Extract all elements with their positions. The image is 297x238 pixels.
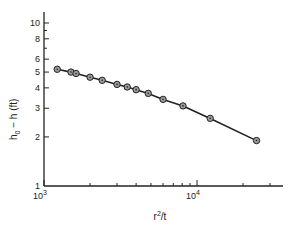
- y-tick-label: 5: [35, 67, 40, 77]
- y-tick-label: 6: [35, 54, 40, 64]
- series-line: [57, 69, 256, 140]
- y-axis-title: h0 − h (ft): [8, 99, 21, 140]
- drawdown-chart: 123456810 103104 h0 − h (ft) r2/t: [0, 0, 297, 238]
- data-point-center: [89, 76, 91, 78]
- data-point-center: [256, 140, 258, 142]
- y-tick-label: 4: [35, 83, 40, 93]
- y-tick-label: 8: [35, 34, 40, 44]
- x-axis-title: r2/t: [154, 210, 167, 222]
- y-tick-label: 2: [35, 132, 40, 142]
- data-point-center: [209, 118, 211, 120]
- data-series: [54, 66, 260, 144]
- data-point-center: [126, 86, 128, 88]
- data-point-center: [70, 71, 72, 73]
- y-tick-label: 1: [35, 181, 40, 191]
- x-tick-label: 103: [33, 189, 47, 201]
- y-tick-label: 3: [35, 103, 40, 113]
- x-axis-ticks: 103104: [33, 180, 270, 201]
- data-point-center: [101, 80, 103, 82]
- y-tick-label: 10: [30, 18, 40, 28]
- data-point-center: [56, 68, 58, 70]
- data-point-center: [116, 84, 118, 86]
- data-point-center: [182, 105, 184, 107]
- data-point-center: [75, 73, 77, 75]
- y-axis-ticks: 123456810: [30, 18, 49, 191]
- data-point-center: [135, 89, 137, 91]
- x-tick-label: 104: [186, 189, 200, 201]
- data-point-center: [147, 93, 149, 95]
- data-point-center: [162, 99, 164, 101]
